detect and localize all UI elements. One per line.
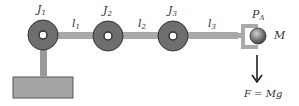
end-point-label: PA: [251, 8, 264, 22]
force-label: F = Mg: [243, 88, 282, 99]
link-1: [56, 32, 96, 39]
mass-ball: [250, 28, 266, 44]
force-arrow-icon: [252, 55, 262, 82]
joint-1: [28, 20, 58, 50]
joint-3: [158, 21, 188, 51]
joint-3-label: J3: [166, 4, 177, 18]
joint-2: [93, 21, 123, 51]
link-2-label: l2: [138, 17, 147, 31]
base-post: [40, 46, 47, 77]
link-2: [120, 32, 160, 39]
joint-2-label: J2: [101, 4, 112, 18]
robot-arm-diagram: J1 J2 J3 l1 l2 l3 PA M F = Mg: [0, 0, 299, 106]
mass-label: M: [273, 29, 286, 42]
link-3: [186, 32, 238, 39]
link-1-label: l1: [72, 17, 80, 31]
base-block: [13, 77, 73, 98]
joint-1-label: J1: [35, 3, 46, 17]
link-3-label: l3: [208, 17, 217, 31]
